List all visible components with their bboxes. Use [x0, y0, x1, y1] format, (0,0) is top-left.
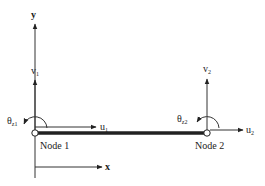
x-axis-label: x	[105, 161, 110, 172]
theta-z1-label: θz1	[7, 115, 17, 127]
node-1-label: Node 1	[40, 140, 69, 151]
node-1-dofs: v1 u1 θz1 Node 1	[7, 65, 108, 151]
node-2-label: Node 2	[195, 140, 224, 151]
x-axis: x	[35, 161, 110, 172]
theta-z2-arc-icon	[197, 117, 219, 128]
beam-element-diagram: y x v1 u1 θz1 Node 1 v2	[0, 0, 265, 186]
node-2-dofs: v2 u2 θz2 Node 2	[177, 63, 254, 151]
u2-label: u2	[246, 124, 254, 136]
y-axis-label: y	[31, 9, 36, 20]
node-1-marker	[32, 130, 38, 136]
node-2-marker	[204, 130, 210, 136]
u1-label: u1	[100, 121, 108, 133]
v2-label: v2	[203, 63, 211, 75]
theta-z2-label: θz2	[177, 113, 187, 125]
v1-label: v1	[31, 65, 39, 77]
